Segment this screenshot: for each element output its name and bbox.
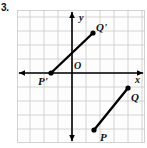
point-label-Pp: P' [38, 76, 48, 87]
point-marker-Qp [90, 30, 95, 35]
x-axis-label: x [135, 75, 140, 85]
point-label-P: P [100, 132, 107, 143]
plot-layer [17, 10, 145, 143]
origin-label: O [74, 61, 81, 71]
point-marker-Pp [48, 70, 53, 75]
point-label-Qp: Q' [96, 22, 107, 33]
y-axis-arrow-down [69, 135, 75, 141]
y-axis-label: y [79, 13, 83, 23]
segments [51, 33, 128, 130]
y-axis-arrow-up [69, 12, 75, 18]
point-marker-Q [125, 85, 130, 90]
problem-number: 3. [1, 2, 9, 13]
coordinate-graph: y x O PQP'Q' [17, 10, 145, 143]
x-axis-arrow-left [19, 70, 25, 76]
point-markers [48, 30, 130, 132]
point-label-Q: Q [131, 92, 139, 103]
segment-PQ [94, 88, 128, 130]
figure-container: 3. y x O PQP'Q' [0, 0, 147, 148]
point-marker-P [91, 127, 96, 132]
